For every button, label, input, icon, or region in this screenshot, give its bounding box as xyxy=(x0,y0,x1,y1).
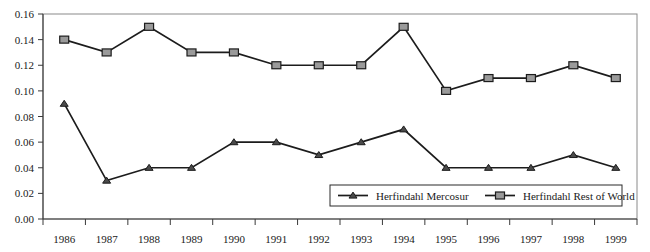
x-tick-label: 1999 xyxy=(605,233,628,245)
line-chart: 0.000.020.040.060.080.100.120.140.16 198… xyxy=(0,0,650,252)
data-point-marker xyxy=(399,23,408,30)
x-tick-label: 1992 xyxy=(308,233,330,245)
data-point-marker xyxy=(60,100,68,106)
legend-label: Herfindahl Mercosur xyxy=(376,190,469,202)
y-tick-label: 0.04 xyxy=(15,162,35,174)
data-point-marker xyxy=(357,62,366,69)
data-point-marker xyxy=(569,62,578,69)
x-axis-tick-labels: 1986198719881989199019911992199319941995… xyxy=(53,233,627,245)
x-tick-label: 1998 xyxy=(562,233,585,245)
data-point-marker xyxy=(442,87,451,94)
y-axis-ticks xyxy=(38,14,43,219)
data-series-group xyxy=(60,23,621,183)
y-tick-label: 0.10 xyxy=(15,85,35,97)
x-tick-label: 1988 xyxy=(138,233,161,245)
data-point-marker xyxy=(102,49,111,56)
x-tick-label: 1990 xyxy=(223,233,246,245)
x-tick-label: 1996 xyxy=(478,233,501,245)
legend-label: Herfindahl Rest of World xyxy=(523,190,635,202)
y-tick-label: 0.14 xyxy=(15,34,35,46)
x-tick-label: 1986 xyxy=(53,233,76,245)
chart-figure: 0.000.020.040.060.080.100.120.140.16 198… xyxy=(0,0,650,252)
x-tick-label: 1989 xyxy=(181,233,204,245)
x-tick-label: 1987 xyxy=(96,233,119,245)
y-tick-label: 0.00 xyxy=(15,213,35,225)
series-herfindahl-rest-of-world xyxy=(60,23,621,94)
x-tick-label: 1994 xyxy=(393,233,416,245)
y-tick-label: 0.08 xyxy=(15,111,35,123)
y-tick-label: 0.02 xyxy=(15,187,34,199)
series-herfindahl-mercosur xyxy=(60,100,620,183)
x-axis-ticks xyxy=(43,219,637,225)
y-tick-label: 0.12 xyxy=(15,59,34,71)
data-point-marker xyxy=(314,62,323,69)
data-point-marker xyxy=(526,75,535,82)
y-axis-tick-labels: 0.000.020.040.060.080.100.120.140.16 xyxy=(15,8,35,225)
x-tick-label: 1993 xyxy=(350,233,373,245)
x-tick-label: 1995 xyxy=(435,233,458,245)
data-point-marker xyxy=(145,23,154,30)
data-point-marker xyxy=(229,49,238,56)
x-tick-label: 1991 xyxy=(265,233,287,245)
data-point-marker xyxy=(569,152,577,158)
chart-legend: Herfindahl MercosurHerfindahl Rest of Wo… xyxy=(330,185,635,206)
y-tick-label: 0.16 xyxy=(15,8,35,20)
x-tick-label: 1997 xyxy=(520,233,543,245)
data-point-marker xyxy=(611,75,620,82)
data-point-marker xyxy=(272,62,281,69)
data-point-marker xyxy=(496,192,505,199)
y-tick-label: 0.06 xyxy=(15,136,35,148)
data-point-marker xyxy=(400,126,408,132)
data-point-marker xyxy=(187,49,196,56)
data-point-marker xyxy=(60,36,69,43)
data-point-marker xyxy=(484,75,493,82)
